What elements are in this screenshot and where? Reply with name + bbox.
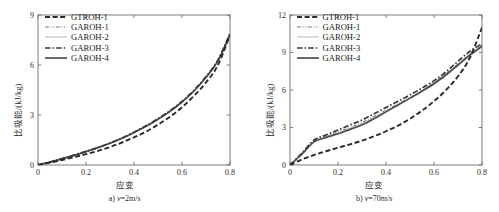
legend-item-label: GAROH-2	[71, 32, 109, 42]
x-tick-label: 0	[288, 168, 292, 177]
chart-panel-b: 比吸能/(kJ/kg) 00.20.40.60.8036912 GTROH-1G…	[250, 0, 499, 212]
legend-key-icon	[44, 22, 68, 32]
legend-item-label: GAROH-1	[323, 22, 361, 32]
legend-item-label: GAROH-3	[323, 43, 361, 53]
y-tick-label: 6	[30, 61, 34, 70]
legend-item-garoh-2: GAROH-2	[44, 32, 109, 42]
legend-item-label: GAROH-4	[323, 53, 361, 63]
legend-item-gtroh-1: GTROH-1	[296, 12, 361, 22]
legend-item-garoh-3: GAROH-3	[296, 43, 361, 53]
legend-item-gtroh-1: GTROH-1	[44, 12, 109, 22]
legend-item-label: GTROH-1	[323, 12, 360, 22]
figure-specific-energy-absorption: 比吸能/(kJ/kg) 00.20.40.60.80369 GTROH-1GAR…	[0, 0, 499, 212]
legend-item-label: GAROH-4	[71, 53, 109, 63]
legend-key-icon	[296, 12, 320, 22]
caption-a-value: =2m/s	[121, 194, 141, 203]
legend-item-garoh-1: GAROH-1	[44, 22, 109, 32]
y-tick-label: 3	[30, 111, 34, 120]
legend-key-icon	[44, 12, 68, 22]
legend-item-garoh-4: GAROH-4	[44, 53, 109, 63]
y-tick-label: 9	[30, 11, 34, 20]
legend-key-icon	[296, 43, 320, 53]
caption-b-value: =70m/s	[368, 194, 392, 203]
legend-item-garoh-2: GAROH-2	[296, 32, 361, 42]
legend-key-icon	[296, 32, 320, 42]
x-tick-label: 0.8	[225, 168, 235, 177]
x-axis-label-b: 应变	[250, 178, 499, 190]
legend-item-garoh-3: GAROH-3	[44, 43, 109, 53]
y-tick-label: 0	[30, 161, 34, 170]
x-tick-label: 0.2	[81, 168, 91, 177]
caption-a-index: a)	[109, 194, 115, 203]
y-tick-label: 0	[282, 161, 286, 170]
legend-b: GTROH-1GAROH-1GAROH-2GAROH-3GAROH-4	[296, 12, 361, 63]
legend-key-icon	[296, 53, 320, 63]
x-tick-label: 0.6	[177, 168, 187, 177]
legend-item-garoh-1: GAROH-1	[296, 22, 361, 32]
legend-item-label: GAROH-2	[323, 32, 361, 42]
x-tick-label: 0.8	[477, 168, 487, 177]
legend-item-label: GTROH-1	[71, 12, 108, 22]
legend-a: GTROH-1GAROH-1GAROH-2GAROH-3GAROH-4	[44, 12, 109, 63]
caption-b-index: b)	[356, 194, 363, 203]
legend-key-icon	[44, 43, 68, 53]
x-tick-label: 0.4	[129, 168, 139, 177]
y-tick-label: 6	[282, 86, 286, 95]
x-tick-label: 0.2	[333, 168, 343, 177]
legend-item-garoh-4: GAROH-4	[296, 53, 361, 63]
x-tick-label: 0.6	[429, 168, 439, 177]
caption-b: b) v=70m/s	[250, 194, 499, 203]
x-axis-label-a: 应变	[0, 178, 249, 190]
legend-item-label: GAROH-1	[71, 22, 109, 32]
x-tick-label: 0	[36, 168, 40, 177]
legend-key-icon	[296, 22, 320, 32]
caption-a: a) v=2m/s	[0, 194, 250, 203]
chart-panel-a: 比吸能/(kJ/kg) 00.20.40.60.80369 GTROH-1GAR…	[0, 0, 250, 212]
y-tick-label: 3	[282, 123, 286, 132]
legend-key-icon	[44, 32, 68, 42]
y-tick-label: 9	[282, 48, 286, 57]
x-tick-label: 0.4	[381, 168, 391, 177]
legend-key-icon	[44, 53, 68, 63]
legend-item-label: GAROH-3	[71, 43, 109, 53]
y-tick-label: 12	[278, 11, 286, 20]
